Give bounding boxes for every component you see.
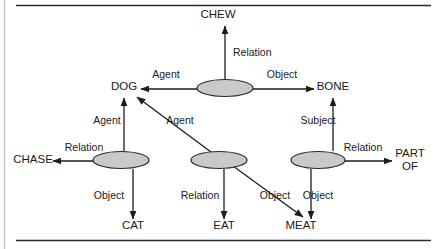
- edge-label-chase-relation-to-dog: Agent: [93, 114, 121, 126]
- edge-label-eat-relation-to-dog: Agent: [166, 114, 194, 126]
- concept-label-line: CHASE: [13, 153, 53, 165]
- concept-label-eat: EAT: [213, 219, 235, 231]
- concept-label-chew: CHEW: [200, 8, 235, 20]
- figure-page: RelationAgentObjectAgentRelationObjectAg…: [0, 0, 436, 249]
- concept-label-line: CAT: [122, 219, 144, 231]
- concept-label-chase: CHASE: [13, 153, 53, 165]
- concept-label-line: EAT: [213, 219, 235, 231]
- edge-label-partof-relation-to-meat: Object: [303, 189, 333, 201]
- edge-label-chew-relation-to-chew: Relation: [233, 46, 272, 58]
- concept-label-meat: MEAT: [285, 219, 316, 231]
- concept-label-line: MEAT: [285, 219, 316, 231]
- edge-label-chase-relation-to-cat: Object: [94, 189, 124, 201]
- concept-label-line: DOG: [111, 80, 137, 92]
- concept-label-line: OF: [402, 160, 418, 172]
- concept-label-line: PART: [395, 147, 425, 159]
- edge-label-chase-relation-to-chase: Relation: [65, 141, 104, 153]
- semantic-network-diagram: RelationAgentObjectAgentRelationObjectAg…: [0, 0, 436, 249]
- edge-label-partof-relation-to-bone: Subject: [300, 114, 335, 126]
- relation-node-chew-relation: [197, 80, 253, 97]
- relation-node-chase-relation: [93, 152, 149, 169]
- relation-node-partof-relation: [291, 152, 345, 169]
- edge-label-chew-relation-to-bone: Object: [267, 68, 297, 80]
- edge-label-eat-relation-to-eat: Relation: [181, 189, 220, 201]
- concept-label-part-of: PARTOF: [395, 147, 425, 172]
- edge-label-partof-relation-to-partof: Relation: [344, 141, 383, 153]
- concept-label-cat: CAT: [122, 219, 144, 231]
- relation-node-eat-relation: [191, 152, 247, 169]
- concept-label-dog: DOG: [111, 80, 137, 92]
- edge-label-chew-relation-to-dog: Agent: [152, 68, 180, 80]
- concept-label-line: BONE: [317, 80, 350, 92]
- concept-label-bone: BONE: [317, 80, 350, 92]
- concept-label-line: CHEW: [200, 8, 235, 20]
- edge-label-eat-relation-to-meat: Object: [260, 189, 290, 201]
